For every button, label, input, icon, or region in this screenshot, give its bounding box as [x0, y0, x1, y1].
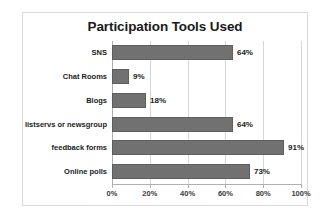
x-axis-tick — [188, 184, 189, 188]
x-axis-tick-label: 0% — [107, 189, 118, 198]
bar[interactable] — [112, 164, 250, 179]
x-axis-tick-label: 100% — [291, 189, 310, 198]
y-axis-label: Online polls — [64, 164, 112, 179]
plot-area: 64%9%18%64%91%73% — [112, 41, 301, 184]
bar-row: 9% — [112, 65, 301, 89]
x-axis-tick — [263, 184, 264, 188]
bar-value-label: 9% — [129, 69, 145, 84]
chart-title: Participation Tools Used — [23, 19, 307, 34]
y-axis-label: listservs or newsgroup — [25, 117, 112, 132]
bar[interactable] — [112, 93, 146, 108]
bar-row: 64% — [112, 41, 301, 65]
x-axis-tick — [225, 184, 226, 188]
bar-row: 18% — [112, 89, 301, 113]
bar-row: 91% — [112, 136, 301, 160]
x-axis-tick — [112, 184, 113, 188]
bar[interactable] — [112, 140, 284, 155]
y-axis-category-labels: SNSChat RoomsBlogslistservs or newsgroup… — [23, 41, 112, 184]
y-axis-label: Blogs — [86, 93, 112, 108]
x-axis-tick-label: 60% — [218, 189, 233, 198]
gridline-100% — [301, 41, 302, 184]
bar-value-label: 91% — [284, 140, 304, 155]
x-axis-tick-label: 20% — [142, 189, 157, 198]
bar-row: 64% — [112, 113, 301, 137]
bar[interactable] — [112, 69, 129, 84]
y-axis-label: feedback forms — [52, 140, 112, 155]
x-axis-tick — [150, 184, 151, 188]
y-axis-label: SNS — [92, 45, 112, 60]
x-axis-line — [112, 184, 302, 185]
bar[interactable] — [112, 117, 233, 132]
x-axis-tick-label: 40% — [180, 189, 195, 198]
bar-row: 73% — [112, 160, 301, 184]
bar-value-label: 73% — [250, 164, 270, 179]
chart-frame: Participation Tools Used SNSChat RoomsBl… — [22, 12, 308, 206]
bar-value-label: 64% — [233, 117, 253, 132]
bar-value-label: 18% — [146, 93, 166, 108]
y-axis-label: Chat Rooms — [63, 69, 112, 84]
bar[interactable] — [112, 45, 233, 60]
bar-value-label: 64% — [233, 45, 253, 60]
x-axis-tick — [301, 184, 302, 188]
x-axis-tick-label: 80% — [256, 189, 271, 198]
